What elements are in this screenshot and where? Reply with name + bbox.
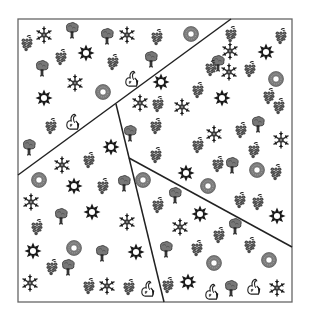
grapes-icon (80, 151, 98, 169)
star-icon (177, 164, 195, 182)
swan-icon (245, 277, 263, 295)
grapes-icon (189, 136, 207, 154)
ring-icon (134, 171, 152, 189)
snowflake-icon (205, 125, 223, 143)
swan-icon (123, 69, 141, 87)
star-icon (102, 138, 120, 156)
snowflake-icon (35, 26, 53, 44)
tree-icon (20, 138, 38, 156)
snowflake-icon (22, 193, 40, 211)
grapes-icon (272, 27, 290, 45)
tree-icon (157, 240, 175, 258)
grapes-icon (148, 28, 166, 46)
ring-icon (94, 83, 112, 101)
tree-icon (166, 186, 184, 204)
snowflake-icon (118, 26, 136, 44)
swan-icon (139, 279, 157, 297)
star-icon (24, 242, 42, 260)
swan-icon (203, 282, 221, 300)
star-icon (127, 243, 145, 261)
grapes-icon (209, 155, 227, 173)
snowflake-icon (272, 131, 290, 149)
snowflake-icon (131, 94, 149, 112)
grapes-icon (147, 117, 165, 135)
star-icon (83, 203, 101, 221)
puzzle-figure: Square frame partitioned into five regio… (0, 0, 309, 318)
star-icon (77, 44, 95, 62)
grapes-icon (42, 117, 60, 135)
grapes-icon (94, 177, 112, 195)
ring-icon (182, 25, 200, 43)
swan-icon (64, 112, 82, 130)
snowflake-icon (98, 277, 116, 295)
snowflake-icon (268, 279, 286, 297)
grapes-icon (267, 163, 285, 181)
grapes-icon (188, 239, 206, 257)
snowflake-icon (21, 274, 39, 292)
grapes-icon (52, 48, 70, 66)
tree-icon (63, 21, 81, 39)
grapes-icon (270, 97, 288, 115)
ring-icon (65, 239, 83, 257)
grapes-icon (28, 218, 46, 236)
grapes-icon (18, 34, 36, 52)
grapes-icon (149, 95, 167, 113)
ring-icon (267, 70, 285, 88)
grapes-icon (120, 278, 138, 296)
grapes-icon (202, 59, 220, 77)
star-icon (65, 177, 83, 195)
star-icon (152, 73, 170, 91)
tree-icon (33, 59, 51, 77)
snowflake-icon (118, 213, 136, 231)
tree-icon (226, 217, 244, 235)
star-icon (35, 89, 53, 107)
ring-icon (248, 161, 266, 179)
grapes-icon (159, 276, 177, 294)
tree-icon (52, 207, 70, 225)
grapes-icon (232, 121, 250, 139)
tree-icon (121, 124, 139, 142)
snowflake-icon (66, 74, 84, 92)
tree-icon (93, 244, 111, 262)
tree-icon (249, 115, 267, 133)
grapes-icon (189, 81, 207, 99)
tree-icon (59, 258, 77, 276)
tree-icon (222, 279, 240, 297)
tree-icon (142, 50, 160, 68)
snowflake-icon (220, 63, 238, 81)
star-icon (213, 89, 231, 107)
ring-icon (260, 251, 278, 269)
grapes-icon (241, 236, 259, 254)
grapes-icon (249, 193, 267, 211)
ring-icon (30, 171, 48, 189)
snowflake-icon (53, 156, 71, 174)
snowflake-icon (173, 98, 191, 116)
grapes-icon (245, 141, 263, 159)
star-icon (191, 205, 209, 223)
grapes-icon (147, 146, 165, 164)
snowflake-icon (171, 218, 189, 236)
tree-icon (115, 174, 133, 192)
grapes-icon (231, 191, 249, 209)
star-icon (257, 43, 275, 61)
grapes-icon (80, 277, 98, 295)
star-icon (179, 273, 197, 291)
grapes-icon (241, 60, 259, 78)
grapes-icon (104, 53, 122, 71)
ring-icon (199, 177, 217, 195)
star-icon (268, 207, 286, 225)
grapes-icon (149, 196, 167, 214)
ring-icon (205, 254, 223, 272)
tree-icon (98, 27, 116, 45)
grapes-icon (222, 25, 240, 43)
